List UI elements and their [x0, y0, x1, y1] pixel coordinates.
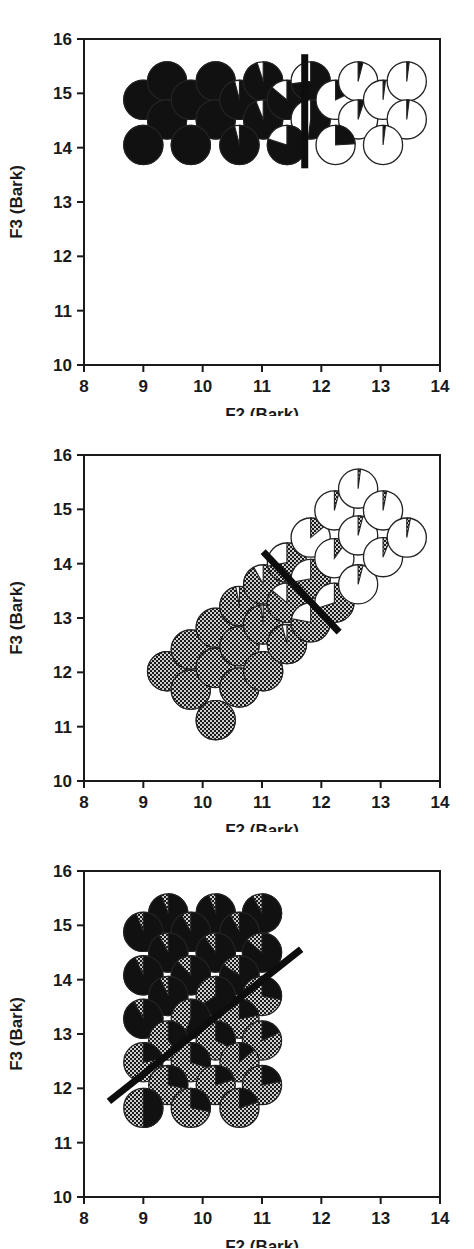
pie-marker: [363, 125, 402, 164]
panel-3-plot: 89101112131410111213141516F2 (Bark)F3 (B…: [0, 832, 474, 1248]
x-tick-label: 8: [79, 793, 88, 812]
y-axis-label: F3 (Bark): [7, 581, 26, 655]
x-tick-label: 13: [371, 793, 390, 812]
pie-marker: [220, 125, 259, 164]
pie-marker: [124, 125, 163, 164]
panel-1-plot: 89101112131410111213141516F2 (Bark)F3 (B…: [0, 0, 474, 416]
y-tick-label: 16: [53, 862, 72, 881]
x-tick-label: 11: [253, 377, 271, 396]
y-tick-label: 11: [54, 1134, 72, 1153]
x-tick-label: 14: [431, 793, 450, 812]
y-tick-label: 10: [53, 1188, 72, 1207]
y-axis-label: F3 (Bark): [7, 165, 26, 239]
data-markers: [124, 62, 427, 165]
pie-marker: [220, 1088, 259, 1127]
y-tick-label: 16: [53, 446, 72, 465]
pie-marker: [196, 701, 235, 740]
pie-marker: [124, 1088, 163, 1127]
x-tick-label: 9: [139, 1209, 148, 1228]
x-tick-label: 13: [371, 1209, 390, 1228]
panel-2-plot: 89101112131410111213141516F2 (Bark)F3 (B…: [0, 416, 474, 832]
pie-marker: [171, 1088, 210, 1127]
x-axis-label: F2 (Bark): [225, 1237, 299, 1248]
x-tick-label: 14: [431, 1209, 450, 1228]
y-tick-label: 10: [53, 356, 72, 375]
x-tick-label: 8: [79, 1209, 88, 1228]
x-tick-label: 9: [139, 377, 148, 396]
x-axis-label: F2 (Bark): [225, 405, 299, 416]
x-tick-label: 14: [431, 377, 450, 396]
y-tick-label: 11: [54, 718, 72, 737]
x-tick-label: 12: [312, 1209, 331, 1228]
panel-1-container: 89101112131410111213141516F2 (Bark)F3 (B…: [0, 0, 474, 416]
pie-marker: [387, 62, 426, 101]
y-tick-label: 14: [53, 971, 72, 990]
x-tick-label: 11: [253, 1209, 271, 1228]
x-tick-label: 10: [193, 793, 212, 812]
y-tick-label: 13: [53, 1025, 72, 1044]
x-axis-label: F2 (Bark): [225, 821, 299, 832]
x-tick-label: 13: [371, 377, 390, 396]
x-tick-label: 10: [193, 1209, 212, 1228]
data-markers: [147, 469, 426, 740]
y-tick-label: 16: [53, 30, 72, 49]
y-tick-label: 13: [53, 193, 72, 212]
x-tick-label: 10: [193, 377, 212, 396]
pie-marker: [316, 125, 355, 164]
y-tick-label: 12: [53, 663, 72, 682]
pie-marker: [387, 518, 426, 557]
panel-2-container: 89101112131410111213141516F2 (Bark)F3 (B…: [0, 416, 474, 832]
y-tick-label: 10: [53, 772, 72, 791]
x-tick-label: 9: [139, 793, 148, 812]
y-tick-label: 11: [54, 302, 72, 321]
y-tick-label: 12: [53, 1079, 72, 1098]
y-tick-label: 14: [53, 555, 72, 574]
y-tick-label: 15: [53, 84, 72, 103]
data-markers: [124, 894, 282, 1128]
x-tick-label: 12: [312, 377, 331, 396]
y-tick-label: 13: [53, 609, 72, 628]
y-tick-label: 15: [53, 500, 72, 519]
x-tick-label: 12: [312, 793, 331, 812]
y-tick-label: 12: [53, 247, 72, 266]
y-tick-label: 15: [53, 916, 72, 935]
panel-3-container: 89101112131410111213141516F2 (Bark)F3 (B…: [0, 832, 474, 1248]
x-tick-label: 11: [253, 793, 271, 812]
pie-marker: [267, 125, 306, 164]
x-tick-label: 8: [79, 377, 88, 396]
y-tick-label: 14: [53, 139, 72, 158]
pie-marker: [171, 125, 210, 164]
y-axis-label: F3 (Bark): [7, 997, 26, 1071]
